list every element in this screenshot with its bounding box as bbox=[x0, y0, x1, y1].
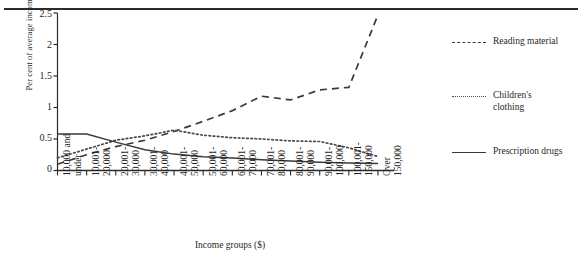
series-line bbox=[58, 15, 378, 164]
x-tick-label: 40,001-50,000 bbox=[179, 147, 200, 176]
x-tick-label: Over150,000 bbox=[382, 145, 403, 176]
x-tick-label: 20,001-30,000 bbox=[120, 147, 141, 176]
legend-label: Children's clothing bbox=[493, 90, 532, 113]
legend-swatch-solid bbox=[452, 147, 486, 159]
legend-swatch-dashed bbox=[452, 37, 486, 49]
x-tick-label: 50,001-60,000 bbox=[208, 147, 229, 176]
x-tick-label: 10,000 andunder bbox=[62, 134, 83, 176]
legend-swatch-dotted bbox=[452, 91, 486, 103]
x-tick-label: 30,001-40,000 bbox=[149, 147, 170, 176]
legend-item-prescription-drugs: Prescription drugs bbox=[452, 146, 562, 159]
x-tick-label: 80,001-90,000 bbox=[295, 147, 316, 176]
x-tick-label: 100,001-150,000 bbox=[353, 142, 374, 176]
chart-figure: Per cent of average income 2.5 2 1.5 1 0… bbox=[0, 0, 582, 263]
x-tick-label: 70,001-80,000 bbox=[266, 147, 287, 176]
legend-label: Reading material bbox=[493, 36, 558, 48]
legend-item-childrens-clothing: Children's clothing bbox=[452, 90, 532, 113]
x-tick-label: 60,001-70,000 bbox=[237, 147, 258, 176]
x-tick-label: 90,001-100,000 bbox=[324, 145, 345, 176]
legend-label: Prescription drugs bbox=[493, 146, 562, 158]
x-axis-title: Income groups ($) bbox=[120, 240, 340, 250]
x-tick-label: 10,001-20,000 bbox=[91, 147, 112, 176]
series-layer bbox=[58, 15, 378, 164]
legend-item-reading-material: Reading material bbox=[452, 36, 558, 49]
